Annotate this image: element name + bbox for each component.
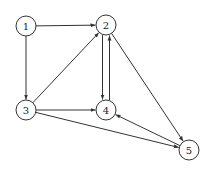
node-4: 4 <box>96 100 116 120</box>
edge-2-to-5 <box>112 33 184 141</box>
directed-graph: 12345 <box>0 0 213 169</box>
node-5: 5 <box>179 140 199 160</box>
graph-canvas: 12345 <box>0 0 213 169</box>
node-label: 2 <box>103 20 109 31</box>
nodes-layer: 12345 <box>16 15 199 160</box>
edge-5-to-4 <box>115 115 180 146</box>
edges-layer <box>26 25 183 147</box>
node-label: 1 <box>23 21 29 32</box>
edge-3-to-2 <box>33 33 99 103</box>
node-label: 5 <box>186 145 192 156</box>
node-1: 1 <box>16 16 36 36</box>
node-label: 4 <box>103 105 109 116</box>
node-3: 3 <box>16 100 36 120</box>
edge-1-to-2 <box>36 25 96 26</box>
node-label: 3 <box>23 105 29 116</box>
node-2: 2 <box>96 15 116 35</box>
